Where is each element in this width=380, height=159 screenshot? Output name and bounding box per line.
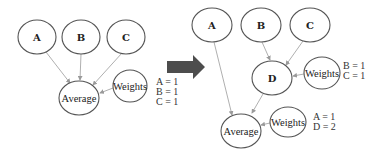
edge-a-average [214, 42, 232, 115]
node-d-label: D [268, 73, 277, 84]
node-average: Average [221, 114, 261, 148]
node-c-label: C [122, 32, 130, 43]
edge-a-average [46, 52, 70, 83]
edge-weights-average [261, 123, 270, 125]
node-a-label: A [32, 32, 41, 43]
node-a-label: A [207, 20, 216, 31]
edge-b-average [80, 54, 81, 80]
node-average-label: Average [62, 93, 97, 104]
node-weights-label: Weights [113, 81, 147, 92]
weights-values: A = 1 B = 1 C = 1 [156, 76, 178, 107]
edge-d-average [252, 94, 263, 113]
node-c-label: C [306, 20, 314, 31]
weights-average-values: A = 1 D = 2 [313, 111, 336, 132]
edge-weights-average [100, 88, 113, 93]
edge-b-d [262, 42, 270, 60]
node-weights-d: Weights [304, 57, 340, 89]
weight-value: C = 1 [343, 70, 365, 81]
node-c: C [107, 20, 145, 54]
node-d: D [252, 61, 292, 95]
weight-value: D = 2 [313, 121, 336, 132]
diagram-canvas: A B C Average Weights A = 1 B = 1 C = 1 [0, 0, 380, 159]
node-b-label: B [257, 20, 265, 31]
node-a: A [192, 8, 232, 42]
node-a: A [18, 20, 56, 54]
node-weights-label: Weights [305, 68, 339, 79]
edge-weights-d [293, 74, 304, 76]
node-average: Average [59, 81, 99, 115]
node-b: B [241, 8, 281, 42]
right-diagram: A B C D Weights B = 1 C = 1 Average Weig [192, 8, 365, 148]
node-average-label: Average [224, 126, 259, 137]
node-weights-label: Weights [271, 117, 305, 128]
node-c: C [290, 8, 330, 42]
node-b-label: B [77, 32, 85, 43]
edge-c-d [286, 41, 303, 65]
node-weights: Weights [113, 70, 147, 102]
weights-d-values: B = 1 C = 1 [343, 60, 365, 81]
node-weights-average: Weights [270, 107, 306, 137]
node-b: B [62, 20, 100, 54]
left-diagram: A B C Average Weights A = 1 B = 1 C = 1 [18, 20, 178, 115]
weight-value: C = 1 [156, 96, 178, 107]
